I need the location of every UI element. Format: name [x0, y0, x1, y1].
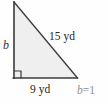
geometry-figure: b 15 yd 9 yd b=1: [0, 0, 108, 104]
answer-value: 1: [89, 84, 95, 96]
vertical-leg-label: b: [3, 39, 9, 51]
hypotenuse-label: 15 yd: [49, 31, 75, 43]
answer-annotation: b=1: [77, 85, 95, 97]
base-label: 9 yd: [30, 84, 50, 96]
